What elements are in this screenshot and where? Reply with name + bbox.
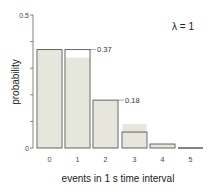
data-labels: 0.370.18 bbox=[90, 45, 140, 105]
y-axis-title: probability bbox=[10, 59, 21, 105]
x-tick-label: 0 bbox=[48, 156, 52, 163]
observed-bar bbox=[123, 124, 147, 148]
observed-bar bbox=[94, 100, 118, 148]
y-tick-label: 0.5 bbox=[19, 12, 29, 19]
x-tick-label: 1 bbox=[76, 156, 80, 163]
x-tick-label: 4 bbox=[161, 156, 165, 163]
data-label: 0.18 bbox=[125, 96, 140, 105]
x-tick-label: 2 bbox=[104, 156, 108, 163]
observed-bar bbox=[38, 50, 62, 148]
poisson-bars bbox=[37, 50, 203, 148]
lambda-annotation: λ = 1 bbox=[172, 21, 194, 32]
x-axis-title: events in 1 s time interval bbox=[62, 173, 175, 184]
x-tick-label: 5 bbox=[189, 156, 193, 163]
x-tick-label: 3 bbox=[133, 156, 137, 163]
y-tick-label: 0 bbox=[25, 145, 29, 152]
data-label: 0.37 bbox=[97, 45, 112, 54]
poisson-bar-chart: 00.5 012345 0.370.18 λ = 1 events in 1 s… bbox=[0, 0, 215, 193]
observed-bar bbox=[66, 58, 90, 148]
y-axis: 00.5 bbox=[19, 12, 33, 152]
observed-bar bbox=[151, 144, 175, 148]
observed-bars bbox=[38, 50, 175, 148]
x-tick-labels: 012345 bbox=[48, 156, 193, 163]
